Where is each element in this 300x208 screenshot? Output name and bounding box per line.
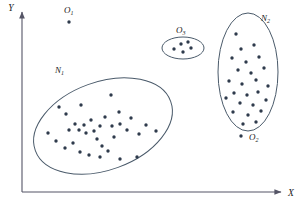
outlier-o1-group: O1 [64,5,74,24]
cluster-n2-group: N2 [218,13,278,131]
y-axis-label: Y [8,3,15,13]
x-axis-label: X [287,188,295,198]
cluster-n1-label: N1 [54,65,64,76]
axes-group: Y X [8,3,295,198]
outlier-o2-group: O2 [239,132,258,143]
outlier-o3-label-subscript: 3 [182,30,186,36]
cluster-n1-boundary [20,60,185,192]
outlier-o3-group: O3 [162,25,204,59]
outlier-o1-label-subscript: 1 [71,10,74,16]
outlier-o2-label-subscript: 2 [256,137,259,143]
outlier-o3-points [172,40,192,53]
cluster-n2-points [224,32,269,125]
plot-canvas: Y X [0,0,300,208]
outlier-o1-point [67,20,70,23]
scatter-plot-figure: Y X [0,0,300,208]
outlier-o1-label: O1 [64,5,74,16]
cluster-n2-label-subscript: 2 [267,18,270,24]
cluster-n1-points [46,93,157,160]
cluster-n1-label-subscript: 1 [61,70,64,76]
cluster-n1-group: N1 [20,60,185,192]
outlier-o2-point [239,134,242,137]
cluster-n2-label: N2 [260,13,270,24]
outlier-o3-boundary [162,37,204,59]
outlier-o2-label: O2 [249,132,259,143]
outlier-o3-label: O3 [176,25,186,36]
